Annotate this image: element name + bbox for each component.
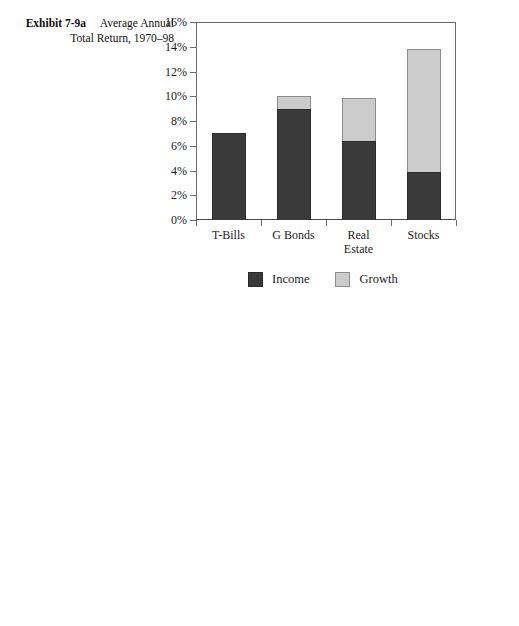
exhibit-a-caption: Exhibit 7-9a Average Annual Total Return… (8, 16, 174, 45)
bar-group (261, 22, 326, 220)
x-axis-separator-tick (261, 220, 262, 226)
x-axis-end-tick (456, 220, 457, 226)
bar-segment-growth (342, 98, 376, 141)
x-axis-label: T-Bills (212, 228, 245, 242)
bar-group (326, 22, 391, 220)
exhibit-a-caption-text: Average Annual Total Return, 1970–98 (70, 17, 174, 44)
x-axis-label: G Bonds (272, 228, 314, 242)
x-axis-label: Real Estate (344, 228, 373, 256)
y-axis-tick-label: 0% (171, 214, 196, 226)
bar-segment-growth (407, 49, 441, 172)
exhibit-7-9b: Exhibit 7-9b Annual Volatility, 1970–98 … (0, 320, 519, 620)
bar-stocks (407, 49, 441, 220)
bar-segment-income (212, 133, 246, 220)
exhibit-a-label: Exhibit 7-9a (26, 17, 86, 29)
legend-swatch-growth-icon (335, 272, 350, 287)
x-axis-separator-tick (391, 220, 392, 226)
legend-item-growth: Growth (335, 272, 397, 287)
bar-t-bills (212, 133, 246, 220)
legend-label-income: Income (272, 272, 309, 287)
y-axis-tick-label: 4% (171, 165, 196, 177)
x-axis-label: Stocks (407, 228, 439, 242)
bar-g-bonds (277, 96, 311, 220)
exhibit-7-9a: Exhibit 7-9a Average Annual Total Return… (0, 0, 519, 310)
y-axis-tick-label: 10% (165, 90, 196, 102)
x-axis-end-tick (196, 220, 197, 226)
legend-item-income: Income (248, 272, 309, 287)
legend-label-growth: Growth (359, 272, 397, 287)
y-axis-tick-label: 2% (171, 189, 196, 201)
x-axis-separator-tick (326, 220, 327, 226)
y-axis-tick-label: 8% (171, 115, 196, 127)
y-axis-tick-label: 16% (165, 16, 196, 28)
y-axis-tick-label: 14% (165, 41, 196, 53)
bar-segment-income (407, 172, 441, 220)
bar-segment-growth (277, 96, 311, 108)
bar-real-estate (342, 98, 376, 221)
chart-a-plot-area: 0%2%4%6%8%10%12%14%16% T-BillsG BondsRea… (196, 22, 456, 220)
y-axis-tick-label: 6% (171, 140, 196, 152)
y-axis-tick-label: 12% (165, 66, 196, 78)
bar-group (391, 22, 456, 220)
bar-segment-income (277, 109, 311, 220)
bar-group (196, 22, 261, 220)
chart-a-legend: Income Growth (248, 272, 398, 287)
legend-swatch-income-icon (248, 272, 263, 287)
bar-segment-income (342, 141, 376, 220)
chart-a-bars (196, 22, 456, 220)
